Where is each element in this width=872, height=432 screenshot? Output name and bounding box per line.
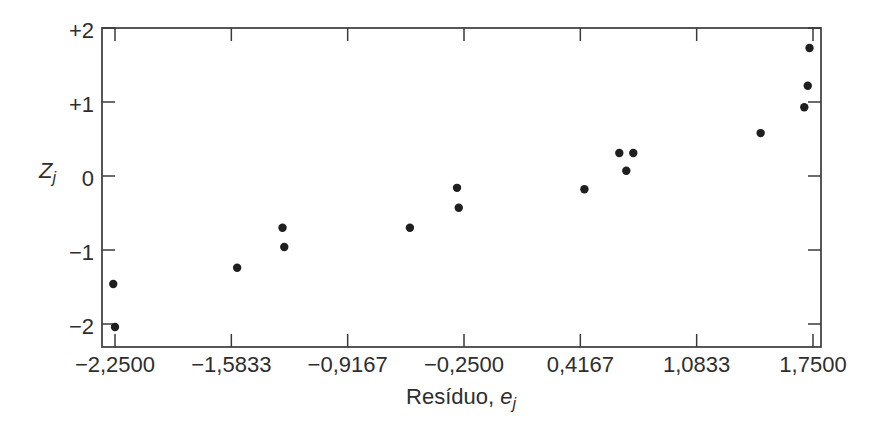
y-tick-label: −1 (69, 240, 94, 265)
x-tick-label: −2,2500 (75, 352, 155, 377)
y-axis-title: Zj (39, 158, 56, 183)
data-point (805, 44, 813, 52)
data-point (622, 167, 630, 175)
x-axis-title-text: Resíduo, (406, 384, 500, 409)
data-point (615, 149, 623, 157)
y-tick-label: 0 (82, 166, 94, 191)
y-tick-label: +1 (69, 92, 94, 117)
x-axis-title: Resíduo, ej (406, 384, 516, 409)
data-point (629, 149, 637, 157)
data-point (804, 82, 812, 90)
x-tick-label: −1,5833 (191, 352, 271, 377)
y-tick-label: +2 (69, 18, 94, 43)
data-point (580, 185, 588, 193)
data-point (800, 103, 808, 111)
y-tick-label: −2 (69, 314, 94, 339)
x-tick-label: −0,2500 (424, 352, 504, 377)
y-axis-subscript: j (52, 169, 56, 186)
normal-probability-plot-figure: −2,2500−1,5833−0,9167−0,25000,41671,0833… (0, 0, 872, 432)
data-point (233, 264, 241, 272)
y-axis-variable: Z (39, 158, 52, 183)
x-tick-label: 1,0833 (663, 352, 730, 377)
x-axis-subscript: j (512, 395, 516, 412)
data-point (453, 184, 461, 192)
data-point (455, 204, 463, 212)
x-tick-label: 0,4167 (547, 352, 614, 377)
data-point (756, 129, 764, 137)
plot-frame (102, 28, 821, 347)
x-tick-label: 1,7500 (779, 352, 846, 377)
data-point (111, 323, 119, 331)
x-axis-variable: e (500, 384, 512, 409)
data-point (278, 224, 286, 232)
data-point (406, 224, 414, 232)
data-point (280, 243, 288, 251)
data-point (109, 280, 117, 288)
x-tick-label: −0,9167 (308, 352, 388, 377)
scatter-plot: −2,2500−1,5833−0,9167−0,25000,41671,0833… (0, 0, 872, 432)
